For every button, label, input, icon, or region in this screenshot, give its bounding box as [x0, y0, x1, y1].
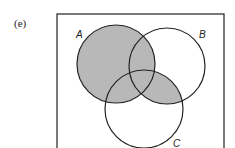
label-b: B	[199, 29, 206, 40]
label-a: A	[75, 29, 83, 40]
venn-diagram: A B C	[0, 0, 235, 148]
label-c: C	[173, 138, 181, 148]
